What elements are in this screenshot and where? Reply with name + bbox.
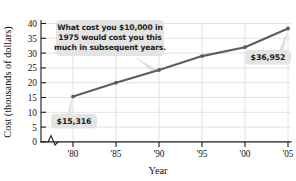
ytick-label-15: 15	[28, 93, 38, 103]
xtick-label-90: '90	[154, 149, 165, 159]
ytick-label-0: 0	[32, 137, 37, 147]
leader-2005	[278, 30, 288, 54]
xtick-label-00: '00	[240, 149, 251, 159]
y-axis-title: Cost (thousands of dollars)	[2, 26, 14, 137]
value-label-1980: $15,316	[51, 114, 97, 129]
callout-line-3: much in subsequent years.	[54, 43, 166, 52]
data-point-80	[71, 95, 75, 99]
callout-line-1: What cost you $10,000 in	[57, 23, 163, 32]
value-label-2005-text: $36,952	[251, 53, 286, 62]
x-axis-title: Year	[149, 165, 169, 176]
x-axis-ticks	[73, 142, 288, 147]
ytick-label-5: 5	[32, 123, 37, 133]
ytick-label-10: 10	[28, 108, 38, 118]
value-label-1980-text: $15,316	[57, 117, 92, 126]
data-point-95	[200, 54, 204, 58]
ytick-label-35: 35	[28, 34, 38, 44]
ytick-label-20: 20	[28, 78, 38, 88]
data-point-90	[157, 68, 161, 72]
data-point-05	[286, 27, 290, 31]
xtick-label-80: '80	[68, 149, 79, 159]
y-axis-ticks	[41, 24, 46, 142]
chart-figure: 40 35 30 25 20 15 10 5 0 '80 '85 '90 '95…	[0, 0, 296, 181]
ytick-label-30: 30	[28, 49, 38, 59]
xtick-label-05: '05	[283, 149, 294, 159]
ytick-label-25: 25	[28, 63, 38, 73]
xtick-label-95: '95	[197, 149, 208, 159]
callout-line-2: 1975 would cost you this	[58, 33, 162, 42]
ytick-label-40: 40	[28, 19, 38, 29]
data-point-85	[114, 81, 118, 85]
data-point-00	[243, 45, 247, 49]
x-axis-break-icon	[48, 136, 58, 146]
xtick-label-85: '85	[111, 149, 122, 159]
main-callout: What cost you $10,000 in 1975 would cost…	[54, 20, 166, 56]
value-label-2005: $36,952	[245, 50, 291, 65]
